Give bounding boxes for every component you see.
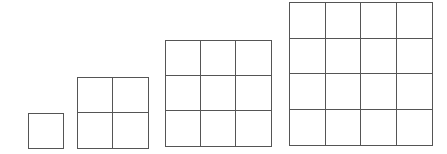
- grid-2x2: [77, 77, 149, 149]
- grid-3x3: [165, 40, 272, 147]
- grid-cell: [166, 111, 201, 146]
- grid-cell: [113, 78, 148, 113]
- grid-cell: [397, 74, 433, 110]
- grid-cell: [78, 113, 113, 148]
- grid-cell: [201, 111, 236, 146]
- grid-1x1: [28, 113, 64, 149]
- grid-cell: [29, 114, 63, 148]
- grid-cell: [326, 110, 362, 146]
- grid-cell: [201, 41, 236, 76]
- grid-cell: [290, 110, 326, 146]
- grid-cell: [290, 39, 326, 75]
- grid-cell: [236, 41, 271, 76]
- grid-cell: [166, 41, 201, 76]
- grid-cell: [326, 3, 362, 39]
- grid-cell: [361, 110, 397, 146]
- grid-cell: [113, 113, 148, 148]
- grid-cell: [201, 76, 236, 111]
- grid-cell: [326, 74, 362, 110]
- grid-cell: [78, 78, 113, 113]
- grid-cell: [236, 76, 271, 111]
- grid-cell: [397, 39, 433, 75]
- grid-cell: [397, 3, 433, 39]
- grid-4x4: [289, 2, 433, 146]
- grid-cell: [236, 111, 271, 146]
- grid-cell: [166, 76, 201, 111]
- grid-cell: [361, 39, 397, 75]
- grid-cell: [290, 3, 326, 39]
- grid-cell: [397, 110, 433, 146]
- grid-cell: [361, 74, 397, 110]
- grid-cell: [326, 39, 362, 75]
- grid-cell: [290, 74, 326, 110]
- grid-cell: [361, 3, 397, 39]
